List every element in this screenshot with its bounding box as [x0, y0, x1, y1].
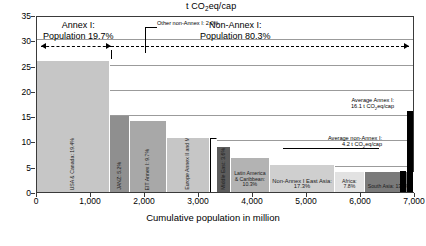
callout-average-annex-i-line2-sub: 2	[375, 106, 377, 111]
bar-usa-canada[interactable]: USA & Canada: 19.4%	[37, 61, 110, 192]
x-axis-tick-mark	[252, 193, 253, 197]
x-axis-tick-label: 7,000	[391, 197, 426, 206]
bar-label: USA & Canada: 19.4%	[70, 138, 76, 191]
plot-area: USA & Canada: 19.4%JANZ: 5.2%EIT Annex I…	[36, 16, 414, 193]
x-axis-tick-mark	[414, 193, 415, 197]
x-axis-tick-mark	[306, 193, 307, 197]
callout-average-non-annex-i-line1: Average non-Annex I:	[328, 135, 382, 141]
x-axis-tick-label: 6,000	[337, 197, 383, 206]
chart-title-pre: t CO	[186, 1, 205, 11]
nonannex1-band-label-line2: Population 80.3%	[165, 31, 305, 42]
reference-bar-average-non-annex-i[interactable]	[400, 171, 406, 192]
chart-title-sub: 2	[205, 5, 209, 12]
chart-title-post: eq/cap	[209, 1, 237, 11]
nonannex1-span-line	[111, 46, 409, 48]
x-axis-tick-label: 2,000	[121, 197, 167, 206]
y-axis-tick-label: 10	[0, 138, 31, 146]
y-axis-tick-label: 5	[0, 164, 31, 172]
y-axis-tick-label: 25	[0, 63, 31, 71]
x-axis-tick-label: 0	[13, 197, 59, 206]
callout-average-annex-i: Average Annex I: 16.1 t CO2eq/cap	[292, 97, 394, 111]
x-axis-tick-mark	[198, 193, 199, 197]
bar-europe-annex-ii-and-m-t[interactable]: Europe Annex II and M & T: 11.4%	[167, 138, 210, 192]
chart-title: t CO2eq/cap	[186, 1, 236, 11]
annex1-band-label: Annex I:Population 19.7%	[8, 20, 148, 42]
callout-average-annex-i-line2-post: eq/cap	[377, 103, 394, 109]
bar-label: Europe Annex II and M & T: 11.4%	[185, 138, 191, 190]
callout-average-non-annex-i-line2-pre: 4.2 t CO	[342, 141, 363, 147]
x-axis-tick-label: 5,000	[283, 197, 329, 206]
x-axis-tick-label: 1,000	[67, 197, 113, 206]
callout-other-non-annex-i: Other non-Annex I: 2.0%	[157, 20, 219, 26]
callout-average-annex-i-line1: Average Annex I:	[351, 97, 394, 103]
x-axis-tick-label: 3,000	[175, 197, 221, 206]
callout-leader-other-horizontal	[145, 27, 157, 28]
y-axis-tick-mark	[31, 117, 35, 118]
chart-container: t CO2eq/cap 05101520253035 USA & Canada:…	[0, 0, 426, 246]
callout-leader-average-non-annex-i	[283, 148, 379, 149]
y-axis-tick-mark	[31, 92, 35, 93]
x-axis-label: Cumulative population in million	[0, 212, 426, 223]
y-axis-tick-mark	[31, 16, 35, 17]
annex1-arrow-left	[41, 43, 46, 49]
x-axis-tick-mark	[144, 193, 145, 197]
bar-label: Latin America & Caribbean: 10.3%	[231, 171, 269, 188]
y-axis-tick-label: 35	[0, 12, 31, 20]
annex1-span-line	[41, 46, 111, 48]
bar-janz[interactable]: JANZ: 5.2%	[110, 116, 130, 192]
bar-label: EIT Annex I: 9.7%	[145, 149, 151, 190]
y-axis-tick-mark	[31, 142, 35, 143]
y-axis-tick-mark	[31, 168, 35, 169]
callout-average-annex-i-line2-pre: 16.1 t CO	[351, 103, 375, 109]
x-axis-tick-label: 4,000	[229, 197, 275, 206]
bar-non-annex-i-east-asia[interactable]: Non-Annex I East Asia: 17.3%	[270, 165, 335, 192]
annex1-band-label-line1: Annex I:	[8, 20, 148, 31]
x-axis-tick-mark	[36, 193, 37, 197]
bar-label: Middle East: 3.6%	[221, 148, 227, 190]
y-axis-tick-label: 0	[0, 189, 31, 197]
bar-other-non-annex-i[interactable]	[210, 138, 218, 192]
bar-latin-america-caribbean[interactable]: Latin America & Caribbean: 10.3%	[231, 158, 270, 192]
bar-label: Africa: 7.8%	[335, 179, 363, 190]
annex1-band-label-line2: Population 19.7%	[8, 31, 148, 42]
bar-africa[interactable]: Africa: 7.8%	[335, 172, 364, 192]
bar-label: JANZ: 5.2%	[117, 162, 123, 190]
x-axis-tick-mark	[360, 193, 361, 197]
y-axis-tick-mark	[31, 67, 35, 68]
bar-eit-annex-i[interactable]: EIT Annex I: 9.7%	[130, 121, 167, 192]
callout-average-non-annex-i-line2-post: eq/cap	[365, 141, 382, 147]
annex-split-tick	[111, 50, 112, 59]
nonannex1-arrow-right	[404, 43, 409, 49]
y-axis-tick-label: 15	[0, 113, 31, 121]
bar-label: Non-Annex I East Asia: 17.3%	[270, 179, 334, 190]
bar-middle-east[interactable]: Middle East: 3.6%	[217, 147, 231, 192]
callout-leader-other-vertical	[145, 27, 146, 53]
x-axis-tick-mark	[90, 193, 91, 197]
reference-bar-average-annex-i[interactable]	[407, 111, 413, 192]
y-axis-tick-mark	[31, 193, 35, 194]
y-axis-tick-label: 20	[0, 88, 31, 96]
